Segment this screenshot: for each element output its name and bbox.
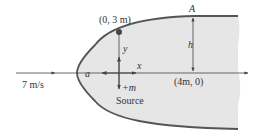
label-a: a <box>85 68 90 79</box>
half-body-region <box>77 16 238 129</box>
label-y: y <box>122 43 128 54</box>
label-source: Source <box>116 95 144 106</box>
label-A: A <box>188 3 196 14</box>
label-downstream-point: (4m, 0) <box>174 76 203 88</box>
label-freestream-velocity: 7 m/s <box>22 79 44 90</box>
label-source-strength: +m <box>122 82 136 93</box>
label-x: x <box>136 60 142 71</box>
point-top <box>116 29 122 35</box>
half-body-diagram: (0, 3 m) A h y x a +m Source (4m, 0) 7 m… <box>0 0 267 136</box>
label-point-top: (0, 3 m) <box>99 14 131 26</box>
label-h: h <box>188 39 193 50</box>
